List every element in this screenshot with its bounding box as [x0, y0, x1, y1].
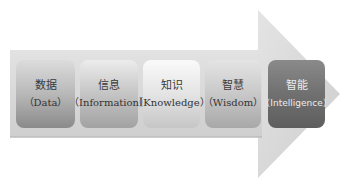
stage-wisdom-zh: 智慧 [222, 79, 244, 93]
stage-information: 信息 （Information） [80, 60, 138, 128]
stage-data: 数据 （Data） [16, 60, 75, 128]
stage-data-en: （Data） [24, 97, 68, 109]
stage-intelligence-en: （Intelligence） [261, 97, 331, 109]
stage-intelligence-zh: 智能 [286, 79, 308, 93]
stage-wisdom-en: （Wisdom） [203, 97, 263, 109]
stage-knowledge: 知识 （Knowledge） [143, 60, 200, 128]
stage-information-zh: 信息 [98, 79, 120, 93]
stage-knowledge-en: （Knowledge） [133, 97, 209, 109]
stage-wisdom: 智慧 （Wisdom） [205, 60, 261, 128]
stage-data-zh: 数据 [35, 79, 57, 93]
stage-intelligence: 智能 （Intelligence） [268, 60, 325, 128]
stage-knowledge-zh: 知识 [161, 79, 183, 93]
